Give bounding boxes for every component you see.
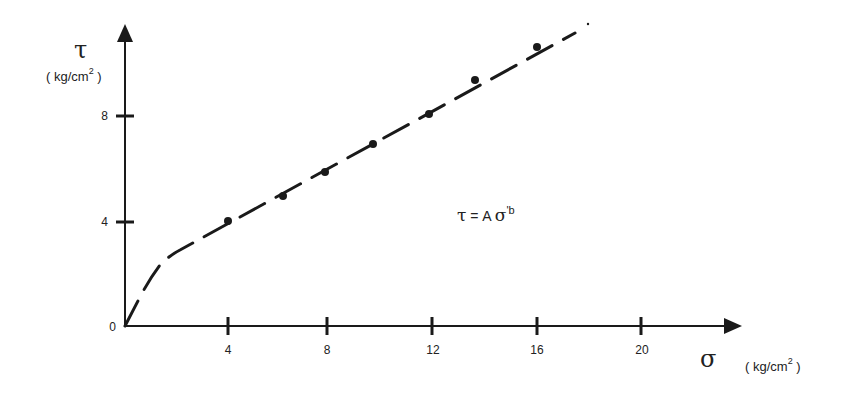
x-axis-unit-text: ( kg/cm — [745, 359, 788, 374]
y-tick-label-4: 4 — [88, 215, 108, 229]
data-point — [224, 217, 232, 225]
y-tick-label-8: 8 — [88, 109, 108, 123]
y-axis-unit-close: ) — [94, 69, 102, 84]
data-point — [321, 168, 329, 176]
x-tick-label-4: 4 — [225, 343, 232, 357]
origin-label: 0 — [96, 320, 116, 334]
x-tick-label-20: 20 — [635, 343, 648, 357]
fitted-curve — [125, 33, 575, 326]
equation-equals: = A — [466, 208, 494, 224]
y-axis-arrow-icon — [117, 24, 133, 42]
equation-annotation: τ = A σ'b — [457, 204, 515, 225]
x-axis-symbol: σ — [700, 345, 716, 373]
data-point — [425, 110, 433, 118]
equation-exponent: 'b — [506, 204, 514, 216]
data-point — [279, 192, 287, 200]
x-axis-unit: ( kg/cm2 ) — [745, 356, 801, 374]
data-points — [224, 43, 541, 225]
chart-canvas — [0, 0, 863, 397]
x-tick-label-12: 12 — [426, 343, 439, 357]
equation-tau: τ — [457, 205, 466, 225]
y-axis-unit: ( kg/cm2 ) — [46, 66, 102, 84]
x-axis-unit-close: ) — [793, 359, 801, 374]
data-point — [369, 140, 377, 148]
equation-sigma: σ — [495, 205, 507, 225]
data-point — [533, 43, 541, 51]
x-axis-arrow-icon — [724, 318, 742, 334]
stray-dot — [587, 23, 589, 25]
x-tick-label-16: 16 — [530, 343, 543, 357]
y-axis-symbol: τ — [74, 36, 87, 64]
y-axis-unit-text: ( kg/cm — [46, 69, 89, 84]
data-point — [471, 76, 479, 84]
x-tick-label-8: 8 — [324, 343, 331, 357]
